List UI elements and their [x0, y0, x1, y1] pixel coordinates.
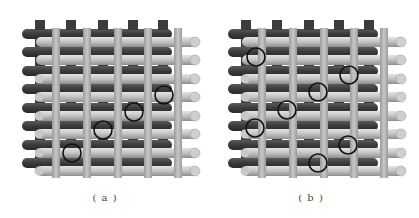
- caption-a: ( a ): [0, 192, 210, 203]
- panel-b: ( b ): [206, 0, 416, 218]
- woven-fabric-diagram-a: [0, 0, 210, 190]
- woven-fabric-diagram-b: [206, 0, 416, 190]
- caption-b: ( b ): [206, 192, 416, 203]
- panel-a: ( a ): [0, 0, 210, 218]
